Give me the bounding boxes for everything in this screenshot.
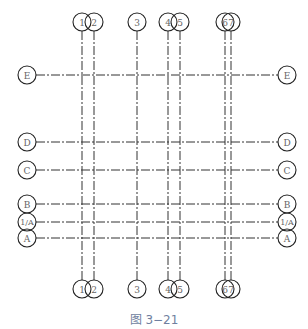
axis-bubble-label: 5 xyxy=(177,285,183,295)
axis-bubble-bottom-7: 7 xyxy=(222,280,240,298)
vertical-axis-bubbles: 11223344556677 xyxy=(73,13,240,298)
axis-bubble-label: A xyxy=(23,234,31,244)
horizontal-axis-lines xyxy=(36,75,278,238)
axis-bubble-label: 4 xyxy=(165,285,171,295)
axis-bubble-bottom-3: 3 xyxy=(128,280,146,298)
axis-bubble-top-7: 7 xyxy=(222,13,240,31)
axis-bubble-label: 1/A xyxy=(20,218,34,227)
axis-bubble-label: 1/A xyxy=(280,218,294,227)
axis-bubble-right-b: B xyxy=(278,195,296,213)
axis-bubble-right-a: A xyxy=(278,229,296,247)
axis-bubble-label: A xyxy=(283,234,291,244)
axis-bubble-label: D xyxy=(283,138,290,148)
axis-bubble-right-e: E xyxy=(278,66,296,84)
axis-bubble-label: 3 xyxy=(134,285,140,295)
axis-grid-drawing: 11223344556677 EEDDCCBB1/A1/AAA xyxy=(0,0,308,329)
axis-bubble-right-c: C xyxy=(278,161,296,179)
vertical-axis-lines xyxy=(82,31,231,280)
axis-bubble-bottom-5: 5 xyxy=(171,280,189,298)
axis-bubble-left-1-a: 1/A xyxy=(18,213,36,231)
axis-bubble-label: 2 xyxy=(91,18,97,28)
axis-bubble-label: 1 xyxy=(79,18,85,28)
axis-bubble-top-5: 5 xyxy=(171,13,189,31)
axis-bubble-left-d: D xyxy=(18,133,36,151)
axis-bubble-bottom-2: 2 xyxy=(85,280,103,298)
axis-bubble-label: 7 xyxy=(228,285,234,295)
axis-bubble-right-1-a: 1/A xyxy=(278,213,296,231)
axis-bubble-label: C xyxy=(24,166,31,176)
axis-bubble-right-d: D xyxy=(278,133,296,151)
axis-bubble-left-b: B xyxy=(18,195,36,213)
axis-bubble-left-a: A xyxy=(18,229,36,247)
horizontal-axis-bubbles: EEDDCCBB1/A1/AAA xyxy=(18,66,296,247)
axis-bubble-top-2: 2 xyxy=(85,13,103,31)
axis-bubble-left-c: C xyxy=(18,161,36,179)
axis-bubble-label: E xyxy=(284,71,291,81)
axis-bubble-top-3: 3 xyxy=(128,13,146,31)
axis-bubble-label: 4 xyxy=(165,18,171,28)
axis-bubble-label: B xyxy=(24,200,31,210)
axis-bubble-label: 3 xyxy=(134,18,140,28)
axis-bubble-label: E xyxy=(24,71,31,81)
axis-bubble-label: 1 xyxy=(79,285,85,295)
axis-bubble-label: 2 xyxy=(91,285,97,295)
axis-bubble-label: D xyxy=(23,138,30,148)
axis-bubble-left-e: E xyxy=(18,66,36,84)
axis-bubble-label: 5 xyxy=(177,18,183,28)
axis-bubble-label: 7 xyxy=(228,18,234,28)
figure-caption: 图 3−21 xyxy=(0,310,308,327)
axis-bubble-label: B xyxy=(284,200,291,210)
axis-bubble-label: C xyxy=(284,166,291,176)
